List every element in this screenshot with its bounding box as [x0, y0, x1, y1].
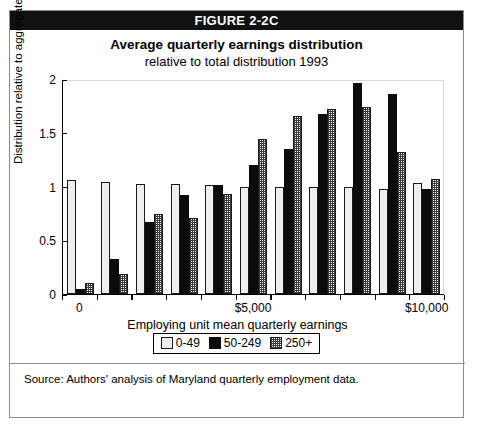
bar-250-	[397, 152, 406, 294]
x-tick-mark	[201, 295, 202, 300]
bar-0-49	[136, 184, 145, 294]
bar-0-49	[379, 189, 388, 294]
bar-50-249	[353, 83, 362, 294]
figure-number-label: FIGURE 2-2C	[194, 13, 278, 28]
bar-0-49	[205, 185, 214, 294]
x-axis-title: Employing unit mean quarterly earnings	[10, 318, 465, 332]
x-tick-mark	[270, 295, 271, 300]
bar-50-249	[145, 222, 154, 294]
bar-group	[98, 80, 133, 294]
bar-group	[202, 80, 237, 294]
bar-0-49	[240, 187, 249, 295]
y-tick-label: 2	[49, 73, 63, 87]
bar-250-	[431, 179, 440, 294]
bar-250-	[362, 107, 371, 294]
figure-card: FIGURE 2-2C Average quarterly earnings d…	[9, 10, 464, 418]
chart-title: Average quarterly earnings distribution	[10, 37, 463, 53]
bar-50-249	[110, 259, 119, 294]
bar-250-	[327, 109, 336, 294]
x-tick-label: $10,000	[405, 301, 448, 315]
bar-50-249	[249, 165, 258, 294]
bar-group	[167, 80, 202, 294]
bar-50-249	[422, 189, 431, 294]
bar-group	[271, 80, 306, 294]
x-tick-mark	[305, 295, 306, 300]
bar-250-	[223, 194, 232, 294]
source-note: Source: Authors' analysis of Maryland qu…	[24, 373, 359, 385]
divider	[10, 363, 465, 364]
bar-0-49	[344, 187, 353, 295]
bar-50-249	[180, 195, 189, 294]
legend-label: 50-249	[224, 336, 261, 350]
y-tick-label: 0	[49, 288, 63, 302]
bar-0-49	[309, 187, 318, 295]
bar-series-container	[63, 80, 444, 294]
bar-50-249	[76, 289, 85, 294]
y-axis-title: Distribution relative to aggregate	[12, 0, 24, 164]
x-tick-mark	[62, 295, 63, 300]
bar-group	[63, 80, 98, 294]
bar-group	[340, 80, 375, 294]
bar-group	[132, 80, 167, 294]
chart-title-block: Average quarterly earnings distribution …	[10, 30, 463, 70]
x-tick-mark	[409, 295, 410, 300]
bar-250-	[85, 283, 94, 294]
bar-0-49	[275, 187, 284, 295]
bar-50-249	[214, 185, 223, 294]
x-tick-mark	[444, 295, 445, 300]
bar-group	[375, 80, 410, 294]
bar-50-249	[388, 94, 397, 294]
legend-item: 250+	[270, 336, 312, 350]
bar-0-49	[101, 182, 110, 294]
bar-50-249	[318, 114, 327, 294]
bar-250-	[189, 218, 198, 294]
bar-0-49	[413, 183, 422, 294]
bar-0-49	[171, 184, 180, 294]
bar-group	[305, 80, 340, 294]
bar-group	[236, 80, 271, 294]
x-tick-mark	[375, 295, 376, 300]
bar-0-49	[67, 180, 76, 294]
chart-legend: 0-4950-249250+	[153, 333, 320, 354]
x-tick-label: 0	[76, 301, 83, 315]
bar-250-	[293, 116, 302, 294]
legend-swatch-icon	[270, 337, 282, 349]
y-tick-label: 1	[49, 181, 63, 195]
x-tick-mark	[97, 295, 98, 300]
x-tick-label: $5,000	[235, 301, 272, 315]
x-axis-tick-labels: 0$5,000$10,000	[62, 301, 444, 317]
bar-250-	[119, 274, 128, 294]
x-tick-mark	[131, 295, 132, 300]
x-tick-mark	[236, 295, 237, 300]
x-axis-ticks	[62, 295, 444, 300]
legend-swatch-icon	[161, 337, 173, 349]
legend-item: 0-49	[161, 336, 200, 350]
bar-250-	[154, 214, 163, 294]
bar-50-249	[284, 149, 293, 294]
bar-group	[409, 80, 444, 294]
chart-subtitle: relative to total distribution 1993	[10, 53, 463, 70]
plot-area: Distribution relative to aggregate 00.51…	[10, 70, 465, 332]
x-tick-mark	[166, 295, 167, 300]
legend-label: 250+	[285, 336, 312, 350]
x-tick-mark	[340, 295, 341, 300]
y-tick-label: 0.5	[39, 234, 63, 248]
bar-250-	[258, 139, 267, 294]
figure-banner: FIGURE 2-2C	[10, 11, 463, 30]
y-tick-label: 1.5	[39, 127, 63, 141]
legend-item: 50-249	[209, 336, 261, 350]
legend-swatch-icon	[209, 337, 221, 349]
legend-label: 0-49	[176, 336, 200, 350]
plot-canvas: 00.511.52	[62, 80, 444, 295]
